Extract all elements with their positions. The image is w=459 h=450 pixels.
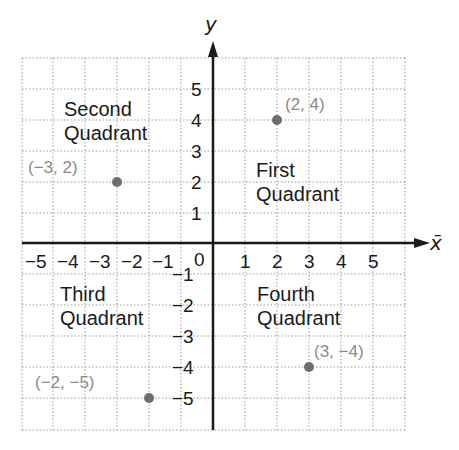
x-tick-2: 2 <box>272 252 283 271</box>
point-label-neg3-2: (−3, 2) <box>28 159 78 176</box>
x-axis-arrow-icon <box>414 238 430 248</box>
y-tick-1: 1 <box>191 204 202 223</box>
x-axis-label: x̄ <box>430 231 442 255</box>
y-tick-neg3: −3 <box>172 327 194 346</box>
y-tick-3: 3 <box>191 142 202 161</box>
point-label-3-neg4: (3, −4) <box>314 343 364 360</box>
x-tick-neg2: −2 <box>121 252 143 271</box>
first-quadrant-line1: First <box>256 158 339 182</box>
fourth-quadrant-line1: Fourth <box>257 282 340 306</box>
fourth-quadrant-label: Fourth Quadrant <box>257 282 340 330</box>
point-3-neg4 <box>304 362 314 372</box>
y-tick-2: 2 <box>191 173 202 192</box>
x-tick-3: 3 <box>304 252 315 271</box>
point-2-4 <box>272 115 282 125</box>
y-tick-neg4: −4 <box>172 358 194 377</box>
third-quadrant-line2: Quadrant <box>60 306 143 330</box>
x-tick-neg1: −1 <box>152 252 174 271</box>
y-tick-neg1: −1 <box>172 265 194 284</box>
y-tick-4: 4 <box>191 111 202 130</box>
x-tick-4: 4 <box>336 252 347 271</box>
y-tick-5: 5 <box>191 80 202 99</box>
y-tick-neg2: −2 <box>172 296 194 315</box>
first-quadrant-line2: Quadrant <box>256 182 339 206</box>
point-neg2-neg5 <box>144 393 154 403</box>
second-quadrant-label: Second Quadrant <box>64 97 147 145</box>
y-axis-arrow-icon <box>208 41 218 57</box>
x-tick-5: 5 <box>368 252 379 271</box>
y-tick-neg5: −5 <box>172 389 194 408</box>
second-quadrant-line1: Second <box>64 97 147 121</box>
second-quadrant-line2: Quadrant <box>64 121 147 145</box>
point-label-neg2-neg5: (−2, −5) <box>35 374 95 391</box>
point-neg3-2 <box>112 177 122 187</box>
x-tick-neg4: −4 <box>57 252 79 271</box>
fourth-quadrant-line2: Quadrant <box>257 306 340 330</box>
third-quadrant-line1: Third <box>60 282 143 306</box>
first-quadrant-label: First Quadrant <box>256 158 339 206</box>
x-tick-neg5: −5 <box>25 252 47 271</box>
x-tick-1: 1 <box>240 252 251 271</box>
x-tick-neg3: −3 <box>89 252 111 271</box>
y-axis-label: y <box>205 12 217 36</box>
third-quadrant-label: Third Quadrant <box>60 282 143 330</box>
point-label-2-4: (2, 4) <box>285 96 325 113</box>
origin-label: 0 <box>194 250 205 269</box>
